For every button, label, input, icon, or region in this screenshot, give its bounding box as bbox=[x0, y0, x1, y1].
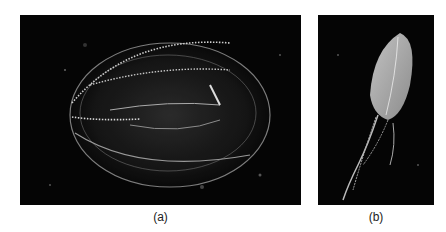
panel-a-caption: (a) bbox=[20, 210, 301, 224]
photo-panel-a bbox=[20, 15, 301, 205]
photo-panel-b bbox=[318, 15, 434, 205]
tentacled-ctenophore-image bbox=[318, 15, 434, 205]
panel-b-caption: (b) bbox=[318, 210, 434, 224]
comb-jelly-image bbox=[20, 15, 301, 205]
